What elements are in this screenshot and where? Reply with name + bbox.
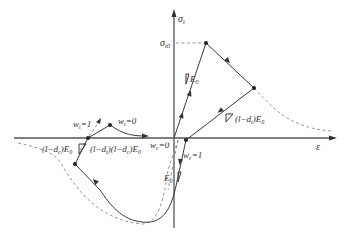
e0c-slope-triangle-icon	[178, 172, 181, 182]
wt0-point	[108, 123, 112, 127]
wt0-path	[88, 125, 145, 138]
x-axis-arrow-icon	[329, 136, 337, 141]
y-axis-label: σt	[178, 13, 185, 25]
softening-point	[252, 86, 256, 90]
unload-compression-label: (l−dc)E0	[42, 144, 72, 155]
zero-crossing-point	[86, 136, 90, 140]
peak-point	[204, 41, 208, 45]
wt1-arrow-icon	[96, 118, 101, 124]
wc1-label: wc=1	[183, 150, 202, 161]
tension-softening-line	[206, 43, 254, 88]
compression-unload-point	[73, 162, 77, 166]
tension-envelope-dashed	[254, 88, 332, 131]
e0-tension-label: E0	[189, 74, 199, 85]
tension-loading-arrow2-icon	[179, 111, 186, 118]
tension-loading-line	[174, 43, 206, 138]
x-axis-label: ε	[316, 141, 320, 152]
e0-slope-triangle-icon	[186, 74, 189, 84]
y-axis-arrow-icon	[172, 9, 177, 17]
dt-slope-triangle-icon	[226, 114, 233, 122]
compression-unload-arrow-icon	[91, 177, 99, 185]
peak-stress-label: σt0	[160, 37, 171, 49]
stress-strain-diagram: σt ε σt0 E0 (l−dt)E0	[0, 0, 345, 234]
origin-unload-point	[184, 138, 188, 142]
wt0-label: wt=0	[118, 116, 137, 127]
unload-tension-label: (l−dt)E0	[235, 114, 264, 125]
reload-combined-label: (l−dt)(l−dc)E0	[90, 144, 141, 155]
wt1-label: wt=1	[73, 119, 91, 130]
dc-slope-triangle-icon	[79, 144, 86, 154]
wc0-label: wc=0	[150, 140, 170, 151]
